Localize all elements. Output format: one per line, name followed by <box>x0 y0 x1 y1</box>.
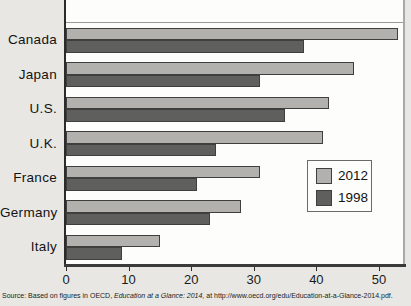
category-label-germany: Germany <box>0 204 57 222</box>
bar-chart: CanadaJapanU.S.U.K.FranceGermanyItaly 01… <box>0 0 411 306</box>
bar-2012-italy <box>66 235 160 248</box>
bar-1998-us <box>66 109 285 122</box>
x-tick-0 <box>66 267 67 271</box>
x-axis <box>64 264 406 267</box>
bar-2012-us <box>66 97 329 110</box>
category-label-uk: U.K. <box>0 135 57 153</box>
bar-2012-germany <box>66 200 241 213</box>
bar-1998-canada <box>66 40 304 53</box>
x-tick-label-40: 40 <box>301 272 331 287</box>
bar-2012-canada <box>66 28 398 41</box>
legend: 2012 1998 <box>307 160 372 212</box>
bar-1998-france <box>66 178 197 191</box>
source-note-prefix: Source: Based on figures in OECD, <box>2 292 114 299</box>
x-tick-label-20: 20 <box>176 272 206 287</box>
bar-1998-japan <box>66 75 260 88</box>
category-label-france: France <box>0 169 57 187</box>
source-note: Source: Based on figures in OECD, Educat… <box>2 292 409 299</box>
x-tick-10 <box>129 267 130 271</box>
bar-2012-japan <box>66 62 354 75</box>
legend-swatch-2012 <box>316 168 332 184</box>
plot-frame-right <box>403 0 405 266</box>
legend-label-1998: 1998 <box>338 190 368 206</box>
bar-2012-uk <box>66 131 323 144</box>
x-tick-label-0: 0 <box>51 272 81 287</box>
category-label-canada: Canada <box>0 31 57 49</box>
x-tick-label-30: 30 <box>239 272 269 287</box>
x-tick-40 <box>316 267 317 271</box>
x-tick-50 <box>379 267 380 271</box>
bar-1998-uk <box>66 144 216 157</box>
category-label-japan: Japan <box>0 66 57 84</box>
category-label-us: U.S. <box>0 100 57 118</box>
legend-swatch-1998 <box>316 190 332 206</box>
bar-2012-france <box>66 166 260 179</box>
source-note-suffix: at http://www.oecd.org/edu/Education-at-… <box>204 292 392 299</box>
source-note-citation: Education at a Glance: 2014, <box>114 292 204 299</box>
x-tick-label-50: 50 <box>364 272 394 287</box>
legend-label-2012: 2012 <box>338 168 368 184</box>
category-label-italy: Italy <box>0 238 57 256</box>
bar-1998-italy <box>66 247 122 260</box>
x-tick-20 <box>191 267 192 271</box>
plot-frame-top <box>66 22 404 23</box>
x-tick-30 <box>254 267 255 271</box>
x-tick-label-10: 10 <box>114 272 144 287</box>
bar-1998-germany <box>66 213 210 226</box>
